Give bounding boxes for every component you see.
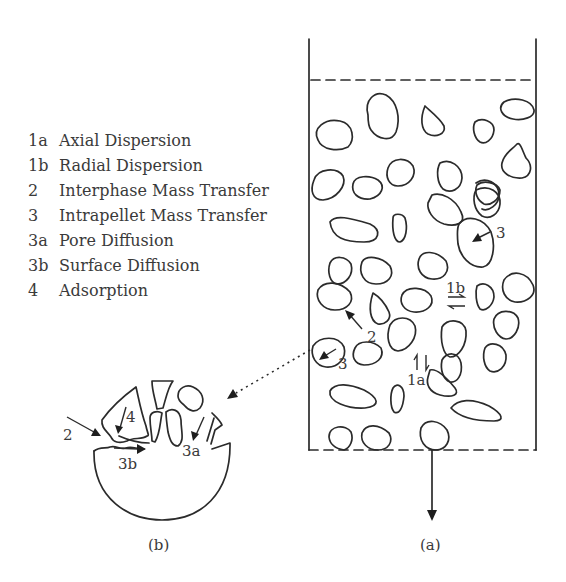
pellet-target-interphase: [317, 283, 351, 310]
legend-label-radial-dispersion: Radial Dispersion: [59, 156, 203, 175]
pellet: [393, 214, 407, 242]
pellet: [312, 170, 344, 200]
pellet: [330, 218, 378, 242]
pellet-shell: [94, 443, 230, 520]
surface-diffusion-arrow: [114, 448, 138, 449]
label-3-upper: 3: [496, 224, 506, 242]
pellet: [418, 252, 447, 279]
pellet: [329, 427, 352, 450]
magnified-pellet: 2 4 3b 3a (b): [63, 381, 230, 554]
pellet: [367, 94, 398, 139]
arrow-head-icon: [115, 425, 123, 434]
pellet-target-upper: [457, 218, 493, 267]
legend-code-4: 4: [28, 281, 38, 300]
label-3b: 3b: [118, 455, 137, 473]
pellet-fragment: [166, 410, 182, 446]
legend-label-pore-diffusion: Pore Diffusion: [59, 231, 174, 250]
pellet: [420, 421, 448, 450]
legend-code-2: 2: [28, 181, 38, 200]
legend-label-surface-diffusion: Surface Diffusion: [59, 256, 200, 275]
legend-label-intrapellet-mass-transfer: Intrapellet Mass Transfer: [59, 206, 267, 225]
pellet-fragment: [211, 413, 222, 444]
pellet: [353, 177, 383, 199]
pellet: [428, 194, 463, 225]
pellet: [494, 311, 519, 339]
label-2-pellet: 2: [63, 426, 73, 444]
legend-code-3a: 3a: [28, 231, 48, 250]
pellet: [501, 99, 534, 119]
pellet: [329, 257, 352, 284]
legend-label-interphase-mass-transfer: Interphase Mass Transfer: [59, 181, 269, 200]
pellet: [330, 385, 376, 408]
adsorption-column-diagram: 1a Axial Dispersion 1b Radial Dispersion…: [0, 0, 566, 582]
packed-column: 3 2 3 1b 1a (a): [309, 39, 536, 554]
pellet: [451, 401, 501, 421]
label-3a: 3a: [182, 442, 201, 460]
pore-diffusion-arrow: [196, 417, 204, 435]
legend-label-adsorption: Adsorption: [58, 281, 148, 300]
arrow-head-icon: [319, 351, 329, 360]
pellet: [317, 120, 353, 149]
pellets: [312, 94, 534, 450]
radial-dispersion-left-arrow: [449, 306, 465, 309]
axial-dispersion-down-arrow: [426, 355, 429, 370]
axial-dispersion-up-arrow: [414, 355, 417, 370]
magnify-arrow-icon: [227, 389, 238, 399]
pellet: [422, 106, 444, 136]
pellet: [388, 318, 416, 351]
legend-code-1b: 1b: [28, 156, 48, 175]
label-3-lower: 3: [338, 355, 348, 373]
legend-code-1a: 1a: [28, 131, 48, 150]
pellet: [438, 161, 462, 191]
pellet: [484, 344, 506, 372]
pellet: [502, 144, 531, 178]
label-1b: 1b: [446, 279, 465, 297]
pellet: [427, 370, 456, 396]
outlet-arrow-icon: [427, 510, 437, 521]
magnify-dotted-line: [236, 350, 310, 393]
pellet: [476, 284, 494, 310]
pellet-fragment: [178, 386, 203, 411]
pellet-fragment: [150, 412, 162, 442]
pellet: [503, 273, 534, 302]
pellet: [441, 321, 466, 357]
pellet: [476, 180, 499, 209]
pellet: [362, 426, 391, 450]
legend-code-3b: 3b: [28, 256, 48, 275]
caption-b: (b): [148, 536, 169, 554]
pellet: [391, 385, 404, 413]
label-4: 4: [126, 408, 136, 426]
pellet: [401, 288, 432, 312]
legend: 1a Axial Dispersion 1b Radial Dispersion…: [28, 131, 269, 300]
legend-code-3: 3: [28, 206, 38, 225]
pellet: [474, 120, 494, 143]
pellet: [387, 159, 414, 186]
caption-a: (a): [420, 536, 441, 554]
label-1a: 1a: [407, 371, 426, 389]
pellet: [441, 354, 461, 382]
arrow-head-icon: [91, 428, 101, 436]
pellet: [361, 257, 392, 284]
label-2-column: 2: [367, 328, 377, 346]
pellet-fragment: [152, 381, 173, 409]
arrow-head-icon: [137, 444, 146, 454]
legend-label-axial-dispersion: Axial Dispersion: [58, 131, 191, 150]
pellet: [370, 293, 389, 324]
